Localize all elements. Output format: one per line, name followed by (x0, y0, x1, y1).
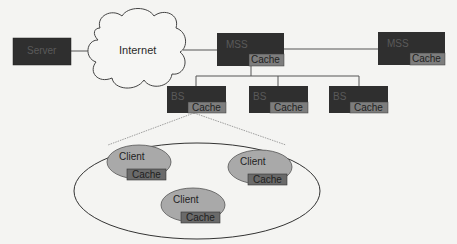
diagram-canvas (0, 0, 457, 244)
zoom-line-right (194, 113, 286, 145)
mss-cache-label-1: Cache (251, 55, 280, 65)
bs-cache-label-3: Cache (354, 103, 383, 113)
client-cache-label-2: Cache (253, 175, 282, 185)
bs-label-2: BS (253, 92, 266, 102)
bs-label-1: BS (171, 92, 184, 102)
client-label-1: Client (119, 152, 145, 162)
server-label: Server (27, 46, 56, 56)
client-cache-label-1: Cache (132, 170, 161, 180)
zoom-line-left (108, 113, 194, 145)
mss-cache-label-2: Cache (412, 54, 441, 64)
internet-label: Internet (119, 45, 156, 56)
mss-label-1: MSS (226, 40, 248, 50)
bs-label-3: BS (333, 92, 346, 102)
client-cache-label-3: Cache (186, 213, 215, 223)
bs-cache-label-1: Cache (192, 103, 221, 113)
bs-cache-label-2: Cache (274, 103, 303, 113)
client-label-2: Client (240, 157, 266, 167)
mss-label-2: MSS (387, 39, 409, 49)
client-label-3: Client (173, 195, 199, 205)
